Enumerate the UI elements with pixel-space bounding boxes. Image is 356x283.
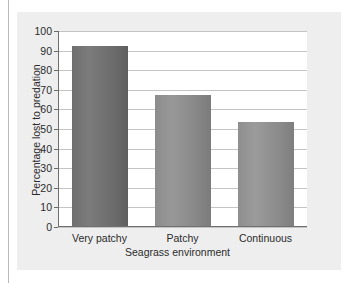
y-tick-label: 10 (40, 201, 52, 213)
y-tick-label: 40 (40, 143, 52, 155)
bar-continuous (238, 122, 294, 226)
y-tick-mark (54, 227, 58, 228)
y-axis-line (58, 31, 59, 227)
x-tick-label: Patchy (166, 232, 198, 244)
bar-patchy (155, 95, 211, 226)
y-tick-label: 60 (40, 103, 52, 115)
x-tick-label: Continuous (239, 232, 292, 244)
plot-area: 0102030405060708090100 Very patchyPatchy… (58, 31, 307, 227)
y-tick-label: 50 (40, 123, 52, 135)
y-tick-label: 70 (40, 84, 52, 96)
y-tick-label: 90 (40, 45, 52, 57)
gridline (58, 227, 307, 228)
y-tick-label: 100 (34, 25, 52, 37)
y-tick-label: 30 (40, 162, 52, 174)
x-axis-line (58, 226, 307, 227)
x-axis-title: Seagrass environment (45, 246, 310, 258)
y-tick-label: 80 (40, 64, 52, 76)
y-tick-label: 20 (40, 182, 52, 194)
y-tick-label: 0 (46, 221, 52, 233)
figure: Percentage lost to predation 01020304050… (0, 0, 356, 283)
gridline (58, 31, 307, 32)
x-tick-label: Very patchy (72, 232, 127, 244)
left-margin-rule (8, 0, 9, 283)
bar-very-patchy (72, 46, 128, 226)
